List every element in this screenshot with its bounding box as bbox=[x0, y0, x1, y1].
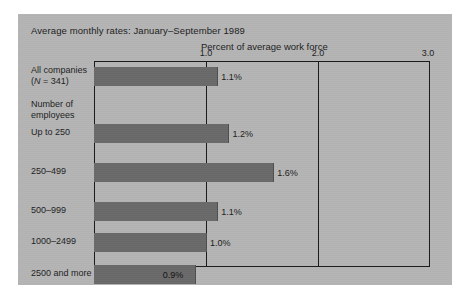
bar-up-to-250 bbox=[94, 124, 229, 143]
category-axis-labels: All companies (N = 341) Number of employ… bbox=[31, 61, 94, 267]
bar-row: 1.0% bbox=[94, 233, 430, 252]
chart-title: Average monthly rates: January–September… bbox=[31, 25, 245, 36]
bar-row: 1.6% bbox=[94, 163, 430, 182]
bar-label-2500-and-more: 0.9% bbox=[163, 270, 184, 280]
bar-series: 1.1% 1.2% 1.6% 1.1% 1.0% 0.9% bbox=[94, 61, 430, 267]
bar-label-250-499: 1.6% bbox=[277, 168, 298, 178]
bar-1000-2499 bbox=[94, 233, 207, 252]
group-heading-line1: Number of bbox=[31, 99, 73, 109]
group-heading-line2: employees bbox=[31, 110, 75, 120]
x-tick-2.0: 2.0 bbox=[312, 48, 325, 58]
figure-panel: Average monthly rates: January–September… bbox=[18, 14, 452, 285]
bar-250-499 bbox=[94, 163, 274, 182]
category-label-1000-2499: 1000–2499 bbox=[31, 236, 76, 247]
category-label-all-companies-line1: All companies bbox=[31, 65, 87, 75]
category-label-all-companies: All companies (N = 341) bbox=[31, 65, 87, 86]
bar-row: 1.1% bbox=[94, 202, 430, 221]
bar-row: 1.1% bbox=[94, 67, 430, 86]
group-heading-number-of-employees: Number of employees bbox=[31, 99, 75, 120]
category-label-all-companies-line2: (N = 341) bbox=[31, 76, 69, 86]
x-tick-1.0: 1.0 bbox=[200, 48, 213, 58]
bar-label-all-companies: 1.1% bbox=[221, 72, 242, 82]
bar-label-500-999: 1.1% bbox=[221, 207, 242, 217]
bar-row: 0.9% bbox=[94, 265, 430, 284]
category-label-500-999: 500–999 bbox=[31, 205, 66, 216]
category-label-2500-and-more: 2500 and more bbox=[31, 268, 92, 279]
x-tick-3.0: 3.0 bbox=[422, 48, 435, 58]
category-label-up-to-250: Up to 250 bbox=[31, 127, 70, 138]
bar-label-up-to-250: 1.2% bbox=[232, 129, 253, 139]
bar-all-companies bbox=[94, 67, 218, 86]
x-axis-title: Percent of average work force bbox=[201, 41, 328, 52]
category-label-250-499: 250–499 bbox=[31, 166, 66, 177]
bar-row: 1.2% bbox=[94, 124, 430, 143]
bar-label-1000-2499: 1.0% bbox=[210, 238, 231, 248]
bar-500-999 bbox=[94, 202, 218, 221]
